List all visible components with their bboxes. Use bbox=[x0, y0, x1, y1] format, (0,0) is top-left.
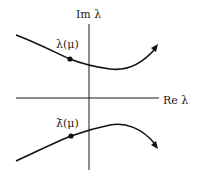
complex-plane-diagram: Im λ Re λ λ(μ) λ̄(μ) bbox=[0, 0, 201, 181]
real-axis-label: Re λ bbox=[163, 94, 188, 107]
imaginary-axis-label: Im λ bbox=[76, 8, 101, 21]
lower-eigenvalue-curve bbox=[16, 124, 155, 161]
lambda-point bbox=[67, 56, 72, 61]
lambda-conjugate-point bbox=[68, 133, 73, 138]
upper-curve-arrowhead bbox=[151, 44, 158, 52]
lambda-conjugate-point-label: λ̄(μ) bbox=[56, 117, 79, 130]
upper-eigenvalue-curve bbox=[16, 35, 155, 69]
lambda-point-label: λ(μ) bbox=[56, 38, 79, 51]
